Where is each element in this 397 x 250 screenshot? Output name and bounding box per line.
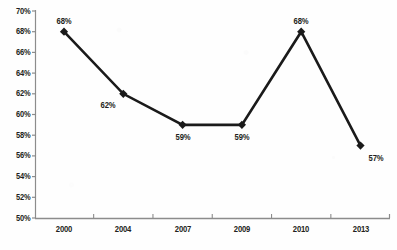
chart-figure: 70%68%66%64%62%60%58%56%54%52%50% 200020… [0,0,397,250]
y-axis-tick-label: 66% [16,47,30,57]
x-axis-ticks [94,214,331,218]
data-markers [60,28,365,150]
y-axis-tick-label: 52% [16,192,30,202]
axes [35,10,390,219]
y-axis-tick-label: 54% [16,171,30,181]
x-axis-tick-label: 2004 [101,224,146,234]
x-axis-tick-label: 2013 [338,224,383,234]
data-point-label: 59% [165,132,201,142]
data-point-label: 59% [224,132,260,142]
y-axis-tick-label: 58% [16,130,30,140]
y-axis-tick-label: 70% [16,6,30,16]
y-axis-tick-label: 62% [16,88,30,98]
data-line-series [64,32,361,146]
x-axis-tick-label: 2009 [219,224,264,234]
y-axis-tick-label: 50% [16,213,30,223]
line-chart-plot [0,0,397,250]
y-axis-tick-label: 56% [16,150,30,160]
data-point-label: 62% [90,100,126,110]
data-point-label: 68% [283,16,319,26]
cropped-bottom-caption [0,244,397,250]
x-axis-tick-label: 2000 [42,224,87,234]
x-axis-tick-label: 2007 [160,224,205,234]
x-axis-tick-label: 2010 [279,224,324,234]
y-axis-tick-label: 60% [16,109,30,119]
data-point-label: 68% [46,16,82,26]
y-axis-tick-label: 68% [16,26,30,36]
y-axis-tick-label: 64% [16,68,30,78]
data-point-label: 57% [358,153,394,163]
